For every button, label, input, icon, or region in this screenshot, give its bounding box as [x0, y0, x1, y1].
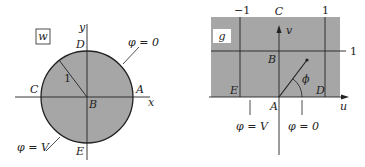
- point-E: E: [229, 84, 238, 97]
- point-B: B: [267, 53, 276, 66]
- upper-boundary-label: φ = 0: [128, 36, 159, 49]
- point-A: A: [135, 83, 144, 96]
- g-plane-panel: g −1 1 1 C v u B A E D ϕ φ = V φ = 0: [209, 4, 357, 155]
- v-axis-label: v: [286, 24, 293, 37]
- u-axis-label: u: [340, 100, 347, 113]
- ray-endpoint: [305, 58, 308, 61]
- g-plane-label: g: [218, 30, 225, 43]
- point-C: C: [275, 5, 284, 18]
- point-B: B: [88, 98, 97, 111]
- point-C: C: [30, 83, 39, 96]
- w-plane-panel: w y x D C A B E 1 φ = 0 φ = V: [15, 21, 159, 160]
- angle-label: ϕ: [302, 73, 310, 86]
- x-axis-label: x: [148, 96, 155, 109]
- lower-boundary-label: φ = V: [17, 141, 50, 154]
- radius-label: 1: [64, 72, 71, 85]
- point-D: D: [75, 38, 85, 51]
- tick-label-neg1: −1: [234, 4, 250, 17]
- left-boundary-label: φ = V: [236, 120, 269, 133]
- right-boundary-label: φ = 0: [288, 120, 319, 133]
- u-axis-arrow: [341, 95, 349, 100]
- tick-label-pos1: 1: [322, 4, 329, 17]
- point-E: E: [75, 145, 84, 158]
- upper-boundary-pointer: [123, 47, 139, 64]
- point-D: D: [315, 84, 325, 97]
- w-plane-label: w: [38, 30, 48, 43]
- point-A: A: [269, 100, 278, 113]
- y-axis-label: y: [78, 21, 86, 34]
- conformal-map-diagram: w y x D C A B E 1 φ = 0 φ = V g −1 1 1 C…: [0, 0, 365, 167]
- tick-label-v1: 1: [350, 45, 357, 58]
